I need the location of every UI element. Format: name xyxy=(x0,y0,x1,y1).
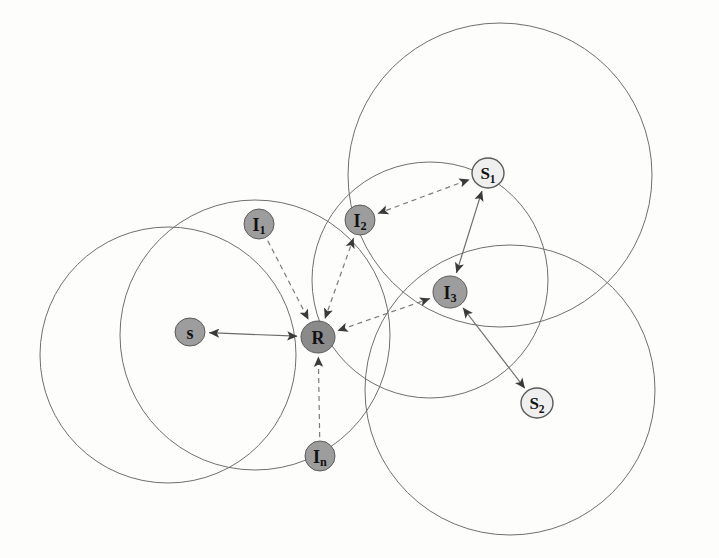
edge-I3-R xyxy=(338,298,430,330)
circle-center-right xyxy=(312,162,548,398)
node-I2[interactable]: I2 xyxy=(345,205,375,235)
node-R[interactable]: R xyxy=(301,321,335,353)
node-In[interactable]: In xyxy=(305,441,335,471)
node-s[interactable]: s xyxy=(175,318,205,346)
nodes-layer: sRI1I2I3InS1S2 xyxy=(175,158,553,471)
edge-s-R xyxy=(209,333,297,337)
edge-I3-S2 xyxy=(463,308,525,388)
node-shape-S2 xyxy=(521,388,553,418)
network-topology-figure: sRI1I2I3InS1S2 xyxy=(0,0,719,558)
node-I1[interactable]: I1 xyxy=(244,209,274,239)
node-I3[interactable]: I3 xyxy=(433,276,467,308)
edge-In-R xyxy=(318,357,319,437)
node-shape-R xyxy=(301,321,335,353)
coverage-circles-layer xyxy=(40,23,655,535)
node-shape-I1 xyxy=(244,209,274,239)
figure-canvas: sRI1I2I3InS1S2 xyxy=(0,0,719,558)
edge-I1-R xyxy=(268,241,308,319)
node-shape-I3 xyxy=(433,276,467,308)
circle-bottom-right xyxy=(365,245,655,535)
node-shape-I2 xyxy=(345,205,375,235)
circle-left-outer xyxy=(40,227,296,483)
node-shape-S1 xyxy=(472,158,504,188)
edge-I3-S1 xyxy=(456,191,482,273)
edge-I2-S1 xyxy=(378,180,469,214)
node-S2[interactable]: S2 xyxy=(521,388,553,418)
edge-I2-R xyxy=(325,238,353,318)
node-S1[interactable]: S1 xyxy=(472,158,504,188)
node-shape-s xyxy=(175,318,205,346)
node-shape-In xyxy=(305,441,335,471)
